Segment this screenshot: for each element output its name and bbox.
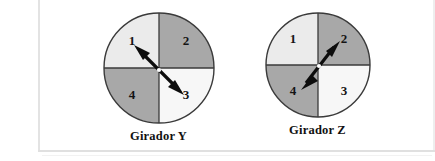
spinner-y-label-3: 3	[182, 87, 189, 102]
page-edge-bottom-shadow	[42, 155, 432, 156]
spinner-z-label-4: 4	[289, 83, 296, 98]
spinner-z-label-1: 1	[289, 31, 296, 46]
spinner-figure: 1 2 3 4 Girador Y	[0, 0, 435, 161]
spinner-y: 1 2 3 4 Girador Y	[100, 9, 218, 144]
spinner-z-dial: 1 2 3 4	[262, 9, 374, 121]
spinner-y-label-1: 1	[128, 33, 135, 48]
spinner-y-caption: Girador Y	[130, 129, 187, 144]
spinner-y-dial: 1 2 3 4	[100, 9, 218, 127]
spinner-z-caption: Girador Z	[289, 123, 346, 138]
spinner-z-pivot	[316, 64, 320, 68]
spinner-y-label-2: 2	[182, 33, 189, 48]
spinner-y-pivot	[156, 68, 160, 72]
spinner-z-label-2: 2	[340, 31, 347, 46]
spinner-y-label-4: 4	[128, 87, 135, 102]
page-edge-bottom	[38, 150, 435, 152]
spinner-row: 1 2 3 4 Girador Y	[38, 0, 435, 150]
spinner-z: 1 2 3 4 Girador Z	[262, 9, 374, 138]
spinner-z-label-3: 3	[340, 83, 347, 98]
